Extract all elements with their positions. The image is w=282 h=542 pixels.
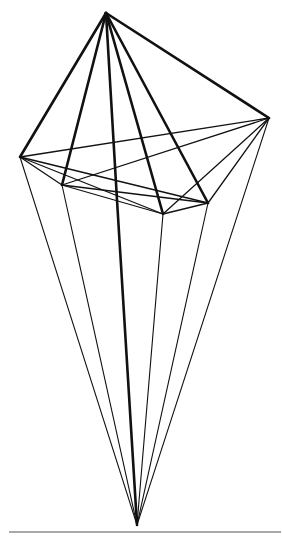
central-axis-edge: [106, 13, 137, 525]
edge-B-E: [62, 118, 269, 185]
upper-pyramid-edges: [20, 13, 269, 214]
edge-B-D: [62, 185, 208, 203]
lower-pyramid-edges: [20, 118, 269, 525]
edge-C-bottom: [137, 214, 163, 525]
edge-B-C: [62, 185, 163, 214]
edge-A-C: [20, 157, 163, 214]
edge-apex-B: [62, 13, 106, 185]
edge-D-bottom: [137, 203, 208, 525]
edge-E-bottom: [137, 118, 269, 525]
edge-A-bottom: [20, 157, 137, 525]
edge-apex-bottom: [106, 13, 137, 525]
caption-divider: [9, 531, 281, 533]
pentagonal-band-edges: [20, 118, 269, 214]
wireframe-polyhedron-diagram: [0, 0, 282, 530]
edge-apex-D: [106, 13, 208, 203]
edge-apex-A: [20, 13, 106, 157]
edge-D-E: [208, 118, 269, 203]
